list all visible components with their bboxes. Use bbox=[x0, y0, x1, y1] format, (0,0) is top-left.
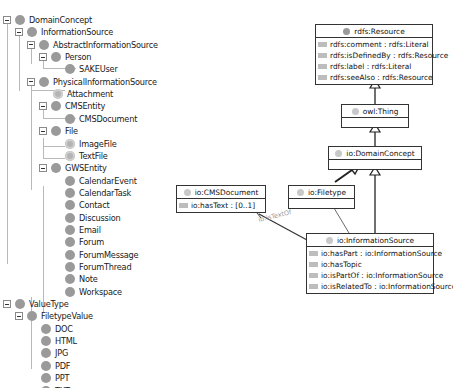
class-title: io:InformationSource bbox=[307, 234, 433, 247]
class-icon bbox=[65, 176, 75, 186]
property-icon bbox=[318, 42, 327, 47]
class-icon bbox=[51, 101, 61, 111]
class-icon bbox=[65, 262, 75, 272]
tree-node-label: DomainConcept bbox=[29, 15, 92, 25]
tree-node-txt[interactable]: TXT bbox=[27, 384, 70, 388]
tree-node-label: CalendarEvent bbox=[79, 176, 137, 186]
class-box-io-domainconcept[interactable]: io:DomainConcept bbox=[328, 146, 422, 170]
class-box-io-informationsource[interactable]: io:InformationSource io:hasPart : io:Inf… bbox=[306, 233, 434, 294]
tree-node-label: PDF bbox=[55, 361, 70, 371]
class-title: io:DomainConcept bbox=[329, 147, 421, 160]
attribute-row: io:hasText : [0..1] bbox=[179, 200, 263, 211]
tree-connector bbox=[7, 24, 8, 264]
tree-node-label: Contact bbox=[79, 200, 109, 210]
class-icon bbox=[352, 108, 359, 115]
collapse-toggle-icon[interactable] bbox=[27, 78, 35, 86]
tree-node-label: File bbox=[65, 126, 78, 136]
class-icon bbox=[65, 114, 75, 124]
collapse-toggle-icon[interactable] bbox=[15, 312, 23, 320]
tree-node-label: Attachment bbox=[67, 89, 113, 99]
class-icon bbox=[41, 373, 51, 383]
property-icon bbox=[318, 75, 327, 80]
class-icon bbox=[41, 336, 51, 346]
tree-node-label: PPT bbox=[55, 373, 69, 383]
tree-connector bbox=[31, 80, 32, 190]
class-icon bbox=[65, 213, 75, 223]
tree-node-label: ForumThread bbox=[79, 262, 131, 272]
tree-node-label: FiletypeValue bbox=[41, 311, 93, 321]
collapse-toggle-icon[interactable] bbox=[3, 16, 11, 24]
attribute-list: rdfs:comment : rdfs:Literal rdfs:isDefin… bbox=[316, 38, 432, 84]
tree-node-label: GWSEntity bbox=[65, 163, 107, 173]
tree-node-label: Note bbox=[79, 274, 98, 284]
attribute-row: io:isPartOf : io:InformationSource bbox=[309, 270, 431, 281]
collapse-toggle-icon[interactable] bbox=[39, 164, 47, 172]
class-hierarchy-tree: DomainConceptInformationSourceAbstractIn… bbox=[0, 0, 175, 388]
class-title: rdfs:Resource bbox=[316, 25, 432, 38]
attribute-row: rdfs:label : rdfs:Literal bbox=[318, 61, 430, 72]
tree-node-label: ImageFile bbox=[79, 139, 117, 149]
tree-node-label: CMSEntity bbox=[65, 101, 105, 111]
tree-node-label: TextFile bbox=[79, 151, 108, 161]
property-icon bbox=[309, 251, 318, 256]
attribute-row: rdfs:comment : rdfs:Literal bbox=[318, 39, 430, 50]
class-icon bbox=[65, 139, 75, 149]
tree-node-label: SAKEUser bbox=[79, 64, 118, 74]
class-icon bbox=[39, 40, 49, 50]
collapse-toggle-icon[interactable] bbox=[39, 53, 47, 61]
attribute-row: io:hasTopic bbox=[309, 259, 431, 270]
tree-node-label: CalendarTask bbox=[79, 188, 131, 198]
class-title: io:Filetype bbox=[289, 186, 354, 199]
tree-node-label: JPG bbox=[55, 348, 68, 358]
class-icon bbox=[53, 89, 63, 99]
class-icon bbox=[15, 299, 25, 309]
collapse-toggle-icon[interactable] bbox=[39, 102, 47, 110]
class-icon bbox=[65, 274, 75, 284]
class-icon bbox=[184, 189, 191, 196]
tree-node-label: Workspace bbox=[79, 287, 122, 297]
property-icon bbox=[309, 284, 318, 289]
attribute-list: io:hasText : [0..1] bbox=[177, 199, 265, 212]
collapse-toggle-icon[interactable] bbox=[15, 28, 23, 36]
class-title: io:CMSDocument bbox=[177, 186, 265, 199]
class-icon bbox=[343, 28, 350, 35]
class-icon bbox=[39, 77, 49, 87]
class-icon bbox=[51, 126, 61, 136]
tree-node-label: ForumMessage bbox=[79, 250, 138, 260]
class-icon bbox=[65, 151, 75, 161]
collapse-toggle-icon[interactable] bbox=[3, 300, 11, 308]
collapse-toggle-icon[interactable] bbox=[27, 41, 35, 49]
tree-node-label: AbstractInformationSource bbox=[53, 40, 158, 50]
class-box-io-filetype[interactable]: io:Filetype bbox=[288, 185, 355, 209]
tree-node-label: HTML bbox=[55, 336, 77, 346]
tree-connector bbox=[43, 138, 44, 158]
class-icon bbox=[65, 250, 75, 260]
class-icon bbox=[27, 311, 37, 321]
class-icon bbox=[65, 200, 75, 210]
attribute-row: io:isRelatedTo : io:InformationSource bbox=[309, 281, 431, 292]
tree-node-label: Discussion bbox=[79, 213, 121, 223]
class-box-rdfs-resource[interactable]: rdfs:Resource rdfs:comment : rdfs:Litera… bbox=[315, 24, 433, 85]
class-icon bbox=[335, 150, 342, 157]
attribute-list bbox=[289, 199, 354, 208]
class-box-owl-thing[interactable]: owl:Thing bbox=[341, 104, 409, 128]
tree-connector bbox=[43, 186, 44, 312]
class-icon bbox=[51, 52, 61, 62]
class-icon bbox=[65, 64, 75, 74]
attribute-row: io:hasPart : io:InformationSource bbox=[309, 248, 431, 259]
attribute-list bbox=[329, 160, 421, 169]
tree-node-label: DOC bbox=[55, 324, 73, 334]
tree-node-label: Forum bbox=[79, 237, 104, 247]
tree-node-label: CMSDocument bbox=[79, 114, 137, 124]
class-box-io-cmsdocument[interactable]: io:CMSDocument io:hasText : [0..1] bbox=[176, 185, 266, 213]
tree-node-label: Email bbox=[79, 225, 101, 235]
class-icon bbox=[65, 225, 75, 235]
attribute-list: io:hasPart : io:InformationSource io:has… bbox=[307, 247, 433, 293]
class-icon bbox=[41, 361, 51, 371]
class-icon bbox=[326, 237, 333, 244]
class-icon bbox=[65, 188, 75, 198]
attribute-list bbox=[342, 118, 408, 127]
class-icon bbox=[297, 189, 304, 196]
tree-node-label: InformationSource bbox=[41, 27, 113, 37]
collapse-toggle-icon[interactable] bbox=[39, 127, 47, 135]
